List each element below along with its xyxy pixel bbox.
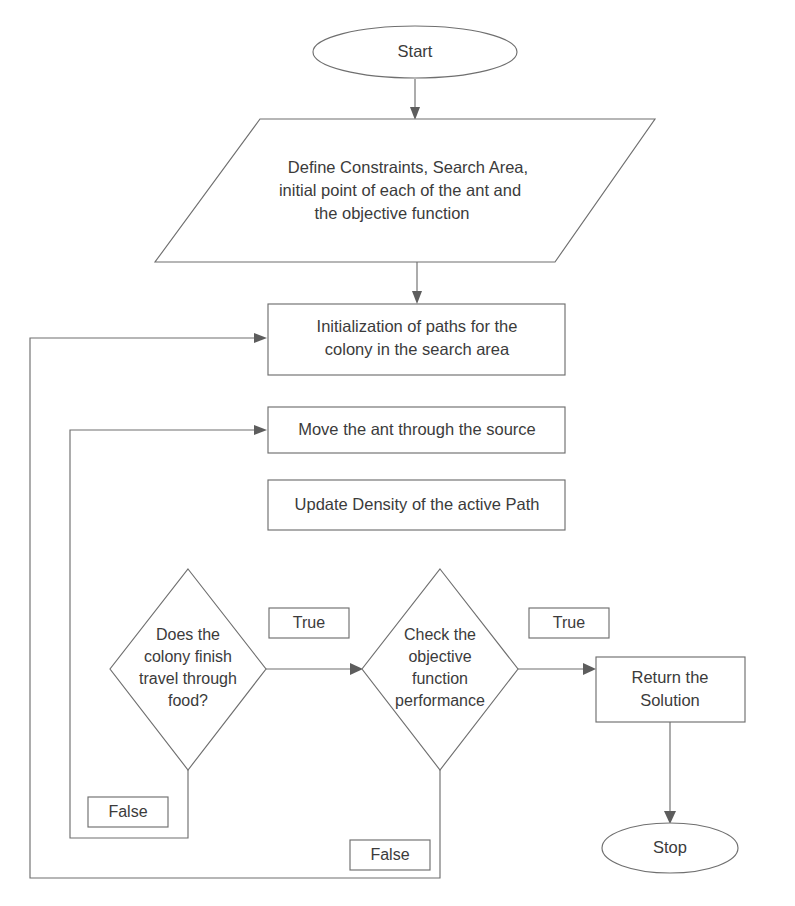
node-decision-colony-line2: colony finish <box>144 648 232 665</box>
node-decision-objective-line3: function <box>412 670 468 687</box>
node-move-ant[interactable]: Move the ant through the source <box>268 407 565 453</box>
node-define-line3: the objective function <box>314 204 469 222</box>
node-define-line1: Define Constraints, Search Area, <box>288 158 528 176</box>
node-stop[interactable]: Stop <box>602 823 738 873</box>
node-decision-colony-line4: food? <box>168 692 208 709</box>
edge-objective-true-to-return <box>518 663 596 675</box>
node-initialization[interactable]: Initialization of paths for the colony i… <box>268 304 565 375</box>
node-update-density[interactable]: Update Density of the active Path <box>268 480 565 530</box>
edge-label-colony-false-text: False <box>108 803 147 820</box>
edge-label-objective-true-text: True <box>553 614 585 631</box>
edge-label-objective-false-text: False <box>370 846 409 863</box>
node-update-density-line1: Update Density of the active Path <box>295 495 540 513</box>
node-decision-colony[interactable]: Does the colony finish travel through fo… <box>110 569 266 770</box>
node-start[interactable]: Start <box>313 26 517 78</box>
node-decision-colony-line3: travel through <box>139 670 237 687</box>
edge-colony-true-to-objective <box>266 663 363 675</box>
node-return-solution[interactable]: Return the Solution <box>596 657 745 722</box>
node-initialization-line2: colony in the search area <box>325 340 510 358</box>
node-stop-label: Stop <box>653 838 687 856</box>
node-initialization-line1: Initialization of paths for the <box>317 317 518 335</box>
node-decision-objective[interactable]: Check the objective function performance <box>362 569 518 770</box>
edge-start-to-define <box>410 79 420 120</box>
edge-return-to-stop <box>664 722 676 824</box>
node-decision-objective-line4: performance <box>395 692 485 709</box>
node-decision-objective-line1: Check the <box>404 626 476 643</box>
flowchart-diagram: Start Define Constraints, Search Area, i… <box>0 0 795 906</box>
edge-define-to-initialization <box>412 262 422 304</box>
node-decision-objective-line2: objective <box>408 648 471 665</box>
node-define-line2: initial point of each of the ant and <box>279 181 521 199</box>
node-define-constraints[interactable]: Define Constraints, Search Area, initial… <box>155 119 655 262</box>
edge-label-colony-true: True <box>269 608 349 638</box>
edge-label-objective-false: False <box>350 840 430 870</box>
edge-label-objective-true: True <box>529 608 609 638</box>
edge-label-colony-false: False <box>88 797 168 827</box>
node-return-solution-line2: Solution <box>640 691 700 709</box>
node-move-ant-line1: Move the ant through the source <box>298 420 536 438</box>
edge-label-colony-true-text: True <box>293 614 325 631</box>
node-return-solution-line1: Return the <box>631 668 708 686</box>
flowchart-canvas: Start Define Constraints, Search Area, i… <box>0 0 795 906</box>
node-decision-colony-line1: Does the <box>156 626 220 643</box>
node-start-label: Start <box>398 42 433 60</box>
